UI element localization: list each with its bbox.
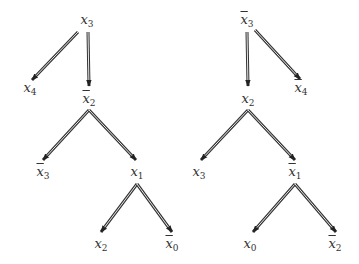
tree-edge-arrow	[248, 110, 295, 160]
tree-node-label: x2	[82, 92, 95, 108]
tree-node-label: x3	[36, 165, 49, 181]
tree-edge-arrow	[101, 184, 137, 232]
tree-edge-arrow	[295, 184, 336, 232]
tree-node-label: x4	[294, 81, 307, 97]
tree-node-label: x0	[243, 237, 256, 253]
tree-node-label: x3	[80, 13, 93, 29]
tree-edge-arrow	[43, 110, 89, 160]
tree-node-label: x3	[192, 165, 205, 181]
tree-edge-arrow	[253, 184, 295, 232]
tree-edge-arrow	[255, 30, 300, 79]
tree-node-label: x2	[94, 237, 107, 253]
tree-edge-arrow	[32, 32, 78, 80]
tree-edges	[0, 0, 359, 264]
tree-edge-arrow	[201, 110, 248, 160]
tree-node-label: x1	[288, 165, 301, 181]
tree-node-label: x0	[165, 237, 178, 253]
tree-node-label: x1	[130, 165, 143, 181]
tree-node-label: x4	[23, 81, 36, 97]
tree-edge-arrow	[247, 32, 248, 86]
tree-node-label: x3	[240, 13, 253, 29]
tree-edge-arrow	[137, 184, 172, 232]
tree-edge-arrow	[89, 110, 136, 160]
tree-edge-arrow	[88, 32, 89, 86]
tree-node-label: x2	[328, 237, 341, 253]
tree-node-label: x2	[241, 92, 254, 108]
